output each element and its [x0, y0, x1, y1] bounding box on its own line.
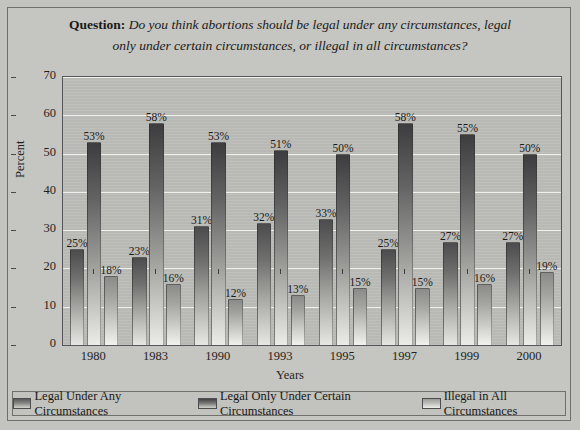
x-tick-label: 1993: [250, 349, 310, 364]
bar: 53%: [211, 142, 226, 345]
y-tick-mark: [11, 77, 16, 78]
y-tick-label: 10: [16, 298, 56, 313]
x-tick-label: 1983: [125, 349, 185, 364]
x-tick-mark: [342, 269, 343, 274]
y-tick-label: 30: [16, 221, 56, 236]
bar-value-label: 58%: [146, 111, 167, 123]
y-tick-mark: [11, 192, 16, 193]
bar-value-label: 12%: [225, 287, 246, 299]
bar: 15%: [415, 288, 430, 345]
bar: 19%: [540, 272, 555, 345]
bar-value-label: 18%: [101, 264, 122, 276]
bar-value-label: 58%: [395, 111, 416, 123]
x-tick-mark: [467, 269, 468, 274]
bar-value-label: 55%: [457, 122, 478, 134]
bar-value-label: 15%: [412, 276, 433, 288]
bar-value-label: 31%: [191, 214, 212, 226]
bar: 15%: [353, 288, 368, 345]
legend-item[interactable]: Legal Under Any Circumstances: [13, 389, 176, 419]
gridline: [63, 230, 561, 231]
bar: 16%: [477, 284, 492, 345]
legend-swatch: [13, 398, 31, 409]
bar-value-label: 23%: [129, 245, 150, 257]
bar-value-label: 25%: [378, 237, 399, 249]
y-tick-mark: [11, 230, 16, 231]
y-tick-mark: [11, 345, 16, 346]
x-tick-mark: [280, 269, 281, 274]
x-tick-label: 1997: [374, 349, 434, 364]
bar-value-label: 33%: [316, 207, 337, 219]
bar: 58%: [149, 123, 164, 345]
bar: 12%: [228, 299, 243, 345]
bar: 50%: [523, 154, 538, 345]
legend-label: Legal Only Under Certain Circumstances: [220, 389, 400, 419]
bar-value-label: 13%: [287, 283, 308, 295]
y-tick-label: 60: [16, 106, 56, 121]
figure: Question: Do you think abortions should …: [0, 0, 580, 430]
chart-title-label: Question:: [69, 17, 125, 32]
y-tick-label: 0: [16, 336, 56, 351]
chart-title: Question: Do you think abortions should …: [40, 14, 540, 56]
x-tick-mark: [155, 269, 156, 274]
y-tick-mark: [11, 268, 16, 269]
bar: 55%: [460, 134, 475, 345]
legend-swatch: [198, 398, 217, 409]
y-tick-label: 70: [16, 68, 56, 83]
bar-value-label: 27%: [440, 230, 461, 242]
y-tick-mark: [11, 154, 16, 155]
x-tick-label: 2000: [499, 349, 559, 364]
bar-value-label: 15%: [350, 276, 371, 288]
x-tick-label: 1995: [312, 349, 372, 364]
bar-value-label: 25%: [67, 237, 88, 249]
y-tick-label: 20: [16, 259, 56, 274]
legend: Legal Under Any CircumstancesLegal Only …: [12, 391, 566, 416]
x-tick-label: 1990: [188, 349, 248, 364]
bar-value-label: 16%: [474, 272, 495, 284]
x-tick-mark: [93, 269, 94, 274]
bar: 31%: [194, 226, 209, 345]
bar: 25%: [70, 249, 85, 345]
y-tick-label: 40: [16, 183, 56, 198]
bar: 13%: [291, 295, 306, 345]
bar: 50%: [336, 154, 351, 345]
bar-value-label: 53%: [84, 130, 105, 142]
bar-value-label: 19%: [536, 260, 557, 272]
bar: 33%: [319, 219, 334, 345]
x-tick-mark: [529, 269, 530, 274]
plot-area: 25%53%18%23%58%16%31%53%12%32%51%13%33%5…: [62, 76, 562, 346]
y-tick-mark: [11, 115, 16, 116]
bar-value-label: 16%: [163, 272, 184, 284]
bar-value-label: 50%: [333, 142, 354, 154]
gridline: [63, 115, 561, 116]
gridline: [63, 192, 561, 193]
legend-label: Legal Under Any Circumstances: [34, 389, 176, 419]
bar: 18%: [104, 276, 119, 345]
gridline: [63, 154, 561, 155]
x-tick-label: 1999: [437, 349, 497, 364]
y-tick-label: 50: [16, 145, 56, 160]
bar: 27%: [506, 242, 521, 345]
bar: 58%: [398, 123, 413, 345]
x-axis-label: Years: [0, 368, 580, 383]
bar-value-label: 53%: [208, 130, 229, 142]
chart-title-line2: only under certain circumstances, or ill…: [40, 35, 540, 56]
chart-title-line1: Do you think abortions should be legal u…: [129, 17, 511, 32]
x-tick-label: 1980: [63, 349, 123, 364]
bar: 32%: [257, 223, 272, 346]
bar: 16%: [166, 284, 181, 345]
bar-value-label: 27%: [502, 230, 523, 242]
bar: 27%: [443, 242, 458, 345]
gridline: [63, 77, 561, 78]
legend-swatch: [422, 398, 440, 409]
legend-item[interactable]: Illegal in All Circumstances: [422, 389, 565, 419]
bar-value-label: 50%: [519, 142, 540, 154]
bar-value-label: 51%: [270, 138, 291, 150]
bar: 53%: [87, 142, 102, 345]
legend-item[interactable]: Legal Only Under Certain Circumstances: [198, 389, 400, 419]
bar: 25%: [381, 249, 396, 345]
bar: 23%: [132, 257, 147, 345]
bar-value-label: 32%: [253, 211, 274, 223]
x-tick-mark: [218, 269, 219, 274]
y-tick-mark: [11, 307, 16, 308]
legend-label: Illegal in All Circumstances: [444, 389, 565, 419]
